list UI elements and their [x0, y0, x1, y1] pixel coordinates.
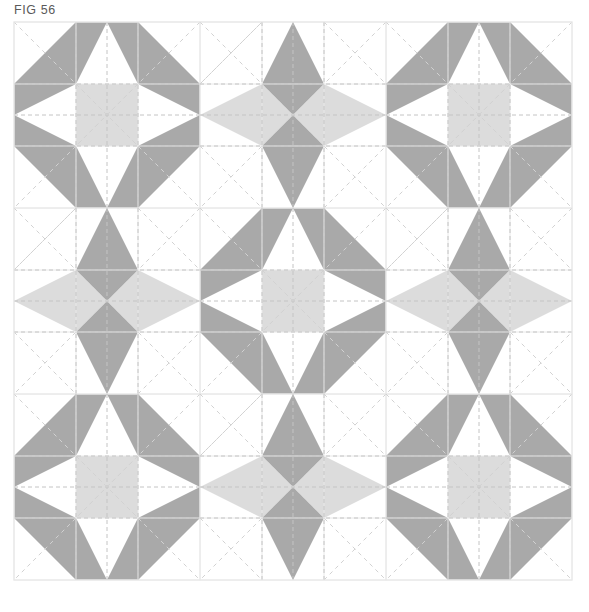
point-right-a: [510, 456, 572, 487]
point-bottom-a: [76, 146, 107, 208]
point-bottom-b: [479, 518, 510, 580]
point-left-a: [200, 270, 262, 301]
point-right-b: [138, 487, 200, 518]
point-left-b: [386, 115, 448, 146]
point-left-a: [14, 84, 76, 115]
point-right-b: [138, 115, 200, 146]
point-top-a: [448, 22, 479, 84]
point-right-b: [510, 115, 572, 146]
point-bottom-b: [479, 146, 510, 208]
point-top-a: [448, 394, 479, 456]
block-r1c1-grid: [14, 22, 200, 208]
point-top-b: [479, 22, 510, 84]
point-left-a: [386, 84, 448, 115]
point-bottom-a: [262, 332, 293, 394]
point-bottom-b: [293, 332, 324, 394]
point-bottom-a: [76, 518, 107, 580]
quilt-svg-root: [0, 0, 589, 612]
point-left-a: [386, 456, 448, 487]
point-right-a: [138, 84, 200, 115]
block-r3c3-grid: [386, 394, 572, 580]
point-top-a: [262, 208, 293, 270]
point-top-a: [76, 22, 107, 84]
point-bottom-a: [448, 146, 479, 208]
block-r3c1-grid: [14, 394, 200, 580]
point-left-b: [200, 301, 262, 332]
point-top-b: [479, 394, 510, 456]
point-top-b: [107, 394, 138, 456]
point-left-b: [14, 115, 76, 146]
point-right-a: [138, 456, 200, 487]
point-left-b: [14, 487, 76, 518]
point-right-a: [324, 270, 386, 301]
block-r2c2-grid: [200, 208, 386, 394]
point-right-b: [324, 301, 386, 332]
point-top-b: [107, 22, 138, 84]
point-left-a: [14, 456, 76, 487]
point-bottom-a: [448, 518, 479, 580]
point-bottom-b: [107, 146, 138, 208]
block-r1c3-grid: [386, 22, 572, 208]
point-left-b: [386, 487, 448, 518]
point-right-a: [510, 84, 572, 115]
point-top-a: [76, 394, 107, 456]
quilt-diagram-canvas: [0, 0, 589, 612]
point-bottom-b: [107, 518, 138, 580]
point-right-b: [510, 487, 572, 518]
point-top-b: [293, 208, 324, 270]
